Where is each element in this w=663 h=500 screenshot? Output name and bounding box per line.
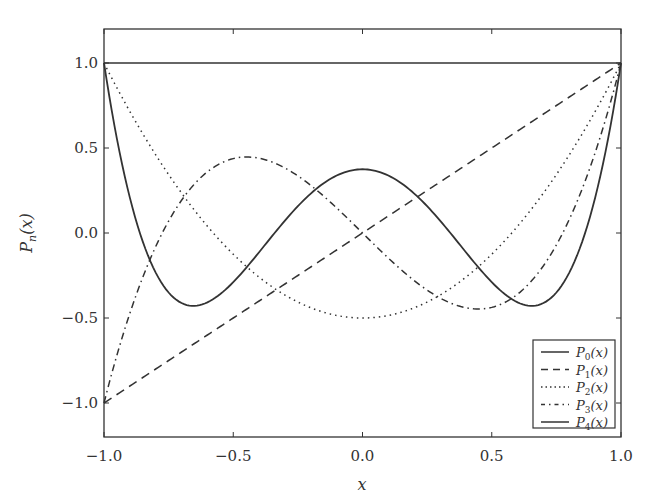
x-tick-label: −1.0 xyxy=(86,447,122,465)
y-axis-label: Pn(x) xyxy=(17,213,39,253)
legend-label-p1: P1(x) xyxy=(575,363,608,380)
series-line-p4 xyxy=(104,63,621,306)
y-tick-label: 1.0 xyxy=(74,54,98,72)
legendre-polynomials-chart: −1.0−0.50.00.51.0 −1.0−0.50.00.51.0 x Pn… xyxy=(0,0,663,500)
y-tick-label: −0.5 xyxy=(62,309,98,327)
legend: P0(x)P1(x)P2(x)P3(x)P4(x) xyxy=(533,340,615,432)
y-tick-label: 0.5 xyxy=(74,139,98,157)
x-tick-label: 1.0 xyxy=(609,447,633,465)
x-axis-label: x xyxy=(357,475,366,494)
series-line-p2 xyxy=(104,63,621,318)
svg-text:Pn(x): Pn(x) xyxy=(17,213,39,253)
legend-label-p4: P4(x) xyxy=(575,415,608,432)
y-tick-label: −1.0 xyxy=(62,394,98,412)
x-tick-label: 0.5 xyxy=(480,447,504,465)
legend-label-p3: P3(x) xyxy=(575,398,608,415)
legend-label-p0: P0(x) xyxy=(575,345,608,362)
x-tick-label: −0.5 xyxy=(215,447,251,465)
x-tick-label: 0.0 xyxy=(351,447,375,465)
legend-label-p2: P2(x) xyxy=(575,380,608,397)
y-tick-label: 0.0 xyxy=(74,224,98,242)
